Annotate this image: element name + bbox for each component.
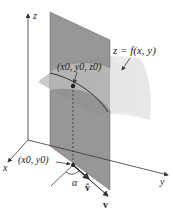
y-axis-label: y	[160, 177, 164, 187]
base-point-pointer	[56, 162, 70, 164]
point-3d-label: (x0, y0, z0)	[57, 62, 101, 72]
z-axis-label: z	[33, 11, 37, 21]
x-axis-label: x	[3, 163, 7, 173]
unit-vector-label: v̂	[85, 183, 90, 193]
directional-derivative-diagram: z x y z = f(x, y) (x0, y0, z0) (x0, y0) …	[0, 0, 173, 215]
point-2d-label: (x0, y0)	[18, 155, 49, 165]
vertical-plane	[50, 12, 110, 190]
vector-label: v	[103, 200, 108, 210]
surface-point	[71, 84, 75, 88]
angle-arc	[66, 171, 79, 174]
surface-label: z = f(x, y)	[113, 45, 156, 56]
angle-label: α	[72, 178, 77, 188]
x-parallel-line	[51, 165, 73, 186]
